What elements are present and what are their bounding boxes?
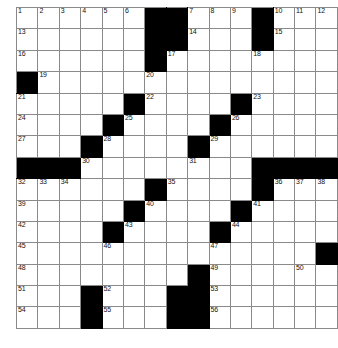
letter-cell[interactable]: 49 [209, 264, 230, 285]
letter-cell[interactable] [123, 243, 144, 264]
letter-cell[interactable]: 36 [273, 179, 294, 200]
letter-cell[interactable] [102, 200, 123, 221]
letter-cell[interactable]: 32 [17, 179, 38, 200]
letter-cell[interactable]: 34 [59, 179, 80, 200]
letter-cell[interactable]: 33 [38, 179, 59, 200]
letter-cell[interactable] [123, 307, 144, 328]
letter-cell[interactable] [209, 29, 230, 50]
letter-cell[interactable]: 25 [123, 114, 144, 135]
letter-cell[interactable]: 35 [166, 179, 187, 200]
letter-cell[interactable] [295, 29, 316, 50]
letter-cell[interactable] [316, 114, 337, 135]
letter-cell[interactable] [209, 200, 230, 221]
letter-cell[interactable]: 21 [17, 93, 38, 114]
letter-cell[interactable] [273, 50, 294, 71]
letter-cell[interactable] [38, 286, 59, 307]
letter-cell[interactable] [102, 93, 123, 114]
letter-cell[interactable] [188, 72, 209, 93]
letter-cell[interactable] [166, 93, 187, 114]
letter-cell[interactable] [252, 243, 273, 264]
letter-cell[interactable] [316, 50, 337, 71]
letter-cell[interactable] [230, 264, 251, 285]
letter-cell[interactable] [252, 136, 273, 157]
letter-cell[interactable] [295, 114, 316, 135]
letter-cell[interactable] [230, 307, 251, 328]
letter-cell[interactable] [166, 72, 187, 93]
letter-cell[interactable]: 50 [295, 264, 316, 285]
letter-cell[interactable] [166, 136, 187, 157]
letter-cell[interactable] [123, 179, 144, 200]
letter-cell[interactable] [59, 93, 80, 114]
letter-cell[interactable] [145, 307, 166, 328]
letter-cell[interactable]: 56 [209, 307, 230, 328]
letter-cell[interactable] [38, 264, 59, 285]
letter-cell[interactable]: 39 [17, 200, 38, 221]
letter-cell[interactable] [38, 136, 59, 157]
letter-cell[interactable] [295, 221, 316, 242]
letter-cell[interactable] [81, 179, 102, 200]
letter-cell[interactable] [166, 200, 187, 221]
letter-cell[interactable] [38, 29, 59, 50]
letter-cell[interactable]: 6 [123, 8, 144, 29]
letter-cell[interactable] [38, 221, 59, 242]
letter-cell[interactable]: 26 [230, 114, 251, 135]
letter-cell[interactable]: 45 [17, 243, 38, 264]
letter-cell[interactable]: 37 [295, 179, 316, 200]
letter-cell[interactable]: 55 [102, 307, 123, 328]
letter-cell[interactable] [38, 50, 59, 71]
letter-cell[interactable] [59, 307, 80, 328]
letter-cell[interactable]: 40 [145, 200, 166, 221]
letter-cell[interactable] [166, 157, 187, 178]
crossword-grid[interactable]: 1234567891011121314151617181920212223242… [16, 7, 338, 329]
letter-cell[interactable] [166, 221, 187, 242]
letter-cell[interactable] [145, 221, 166, 242]
letter-cell[interactable]: 14 [188, 29, 209, 50]
letter-cell[interactable] [295, 286, 316, 307]
letter-cell[interactable] [59, 286, 80, 307]
letter-cell[interactable] [252, 72, 273, 93]
letter-cell[interactable]: 4 [81, 8, 102, 29]
letter-cell[interactable] [295, 243, 316, 264]
letter-cell[interactable] [38, 243, 59, 264]
letter-cell[interactable]: 30 [81, 157, 102, 178]
letter-cell[interactable] [59, 72, 80, 93]
letter-cell[interactable] [166, 243, 187, 264]
letter-cell[interactable] [38, 114, 59, 135]
letter-cell[interactable] [145, 286, 166, 307]
letter-cell[interactable]: 23 [252, 93, 273, 114]
letter-cell[interactable] [59, 243, 80, 264]
letter-cell[interactable] [188, 93, 209, 114]
letter-cell[interactable] [252, 114, 273, 135]
letter-cell[interactable] [188, 221, 209, 242]
letter-cell[interactable]: 15 [273, 29, 294, 50]
letter-cell[interactable] [316, 200, 337, 221]
letter-cell[interactable]: 24 [17, 114, 38, 135]
letter-cell[interactable] [59, 200, 80, 221]
letter-cell[interactable] [295, 136, 316, 157]
letter-cell[interactable] [102, 157, 123, 178]
letter-cell[interactable]: 9 [230, 8, 251, 29]
letter-cell[interactable] [273, 286, 294, 307]
letter-cell[interactable]: 31 [188, 157, 209, 178]
letter-cell[interactable] [188, 243, 209, 264]
letter-cell[interactable] [81, 243, 102, 264]
letter-cell[interactable] [252, 307, 273, 328]
letter-cell[interactable] [102, 179, 123, 200]
letter-cell[interactable] [316, 221, 337, 242]
letter-cell[interactable]: 48 [17, 264, 38, 285]
letter-cell[interactable]: 46 [102, 243, 123, 264]
letter-cell[interactable] [123, 286, 144, 307]
letter-cell[interactable] [188, 114, 209, 135]
letter-cell[interactable]: 53 [209, 286, 230, 307]
letter-cell[interactable]: 44 [230, 221, 251, 242]
letter-cell[interactable] [295, 307, 316, 328]
letter-cell[interactable] [273, 136, 294, 157]
letter-cell[interactable] [209, 50, 230, 71]
letter-cell[interactable] [252, 286, 273, 307]
letter-cell[interactable] [188, 179, 209, 200]
letter-cell[interactable] [81, 50, 102, 71]
letter-cell[interactable]: 22 [145, 93, 166, 114]
letter-cell[interactable] [123, 264, 144, 285]
letter-cell[interactable] [102, 29, 123, 50]
letter-cell[interactable]: 20 [145, 72, 166, 93]
